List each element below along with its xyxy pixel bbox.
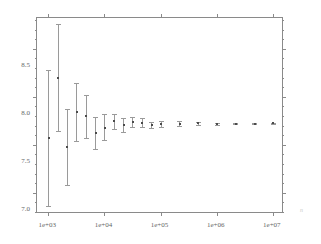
y-tick-major-right [282, 97, 286, 98]
error-bar-cap-upper [159, 121, 164, 122]
data-point [216, 123, 218, 125]
x-tick [104, 212, 105, 216]
y-tick-minor [35, 202, 37, 203]
error-bar-cap-upper [65, 109, 70, 110]
y-tick-minor-right [282, 164, 284, 165]
y-tick-major-right [282, 145, 286, 146]
y-tick-minor-right [282, 30, 284, 31]
error-bar-cap-lower [46, 206, 51, 207]
y-tick-major-right [282, 49, 286, 50]
y-tick-label: 8.5 [21, 61, 30, 69]
x-tick [273, 212, 274, 216]
y-tick-minor [35, 174, 37, 175]
y-tick-minor-right [282, 135, 284, 136]
y-tick-minor [35, 116, 37, 117]
y-tick-minor-right [282, 183, 284, 184]
y-tick-minor [35, 78, 37, 79]
y-tick-minor [35, 106, 37, 107]
x-axis-labels: 1e+031e+041e+051e+061e+07 [36, 221, 283, 233]
y-tick-label: 7.5 [21, 157, 30, 165]
error-bar-cap-lower [65, 185, 70, 186]
data-point [113, 120, 115, 122]
y-tick-minor-right [282, 68, 284, 69]
error-bar-cap-lower [140, 127, 145, 128]
y-tick-major [33, 145, 37, 146]
error-bar-cap-upper [93, 117, 98, 118]
data-point [197, 122, 199, 124]
error-bar-cap-lower [177, 126, 182, 127]
data-point [123, 124, 125, 126]
y-tick-minor [35, 30, 37, 31]
x-tick-top [273, 14, 274, 18]
error-bar-cap-lower [56, 131, 61, 132]
data-layer [37, 18, 282, 212]
x-tick [161, 212, 162, 216]
data-point [85, 115, 87, 117]
y-tick-minor-right [282, 58, 284, 59]
error-bar-cap-lower [159, 127, 164, 128]
x-tick [217, 212, 218, 216]
y-tick-minor [35, 164, 37, 165]
y-tick-label: 8.0 [21, 109, 30, 117]
data-point [235, 123, 237, 125]
data-point [272, 122, 274, 124]
error-bar-cap-lower [112, 129, 117, 130]
error-bar-cap-upper [102, 114, 107, 115]
y-tick-minor [35, 212, 37, 213]
x-tick-label: 1e+05 [151, 221, 169, 229]
x-tick-label: 1e+06 [207, 221, 225, 229]
error-bar-cap-upper [56, 24, 61, 25]
x-axis-title: n [300, 207, 303, 214]
error-bar-cap-lower [149, 128, 154, 129]
error-bar-cap-lower [102, 140, 107, 141]
error-bar-cap-upper [74, 83, 79, 84]
data-point [95, 132, 97, 134]
data-point [104, 127, 106, 129]
error-bar-cap-lower [121, 132, 126, 133]
y-tick-label: 7.0 [21, 205, 30, 213]
error-bar-cap-lower [93, 149, 98, 150]
error-bar-cap-upper [112, 114, 117, 115]
y-tick-minor-right [282, 202, 284, 203]
chart-figure: 7.07.58.08.5 1e+031e+041e+051e+061e+07 n [0, 0, 321, 244]
x-tick-label: 1e+03 [38, 221, 56, 229]
error-bar-cap-lower [84, 138, 89, 139]
data-point [132, 121, 134, 123]
x-tick-label: 1e+04 [95, 221, 113, 229]
data-point [254, 123, 256, 125]
error-bar-cap-lower [130, 127, 135, 128]
error-bar-cap-upper [121, 118, 126, 119]
y-tick-minor [35, 87, 37, 88]
data-point [141, 122, 143, 124]
error-bar-cap-lower [74, 141, 79, 142]
y-tick-minor-right [282, 116, 284, 117]
y-tick-minor-right [282, 126, 284, 127]
y-tick-minor [35, 126, 37, 127]
data-point [160, 123, 162, 125]
x-tick [48, 212, 49, 216]
x-tick-top [48, 14, 49, 18]
error-bar-cap-upper [149, 122, 154, 123]
x-tick-top [104, 14, 105, 18]
y-tick-minor [35, 135, 37, 136]
y-tick-minor [35, 20, 37, 21]
data-point [66, 146, 68, 148]
y-tick-major-right [282, 193, 286, 194]
data-point [76, 111, 78, 113]
error-bar-cap-upper [140, 118, 145, 119]
y-tick-minor-right [282, 212, 284, 213]
y-tick-minor [35, 39, 37, 40]
data-point [151, 124, 153, 126]
x-tick-top [161, 14, 162, 18]
x-tick-top [217, 14, 218, 18]
y-tick-minor [35, 154, 37, 155]
y-tick-major [33, 97, 37, 98]
error-bar-cap-upper [46, 70, 51, 71]
y-axis-labels: 7.07.58.08.5 [0, 17, 30, 213]
y-tick-minor-right [282, 87, 284, 88]
y-tick-minor [35, 183, 37, 184]
x-tick-label: 1e+07 [263, 221, 281, 229]
error-bar-cap-lower [196, 125, 201, 126]
y-tick-minor [35, 58, 37, 59]
y-tick-minor-right [282, 78, 284, 79]
